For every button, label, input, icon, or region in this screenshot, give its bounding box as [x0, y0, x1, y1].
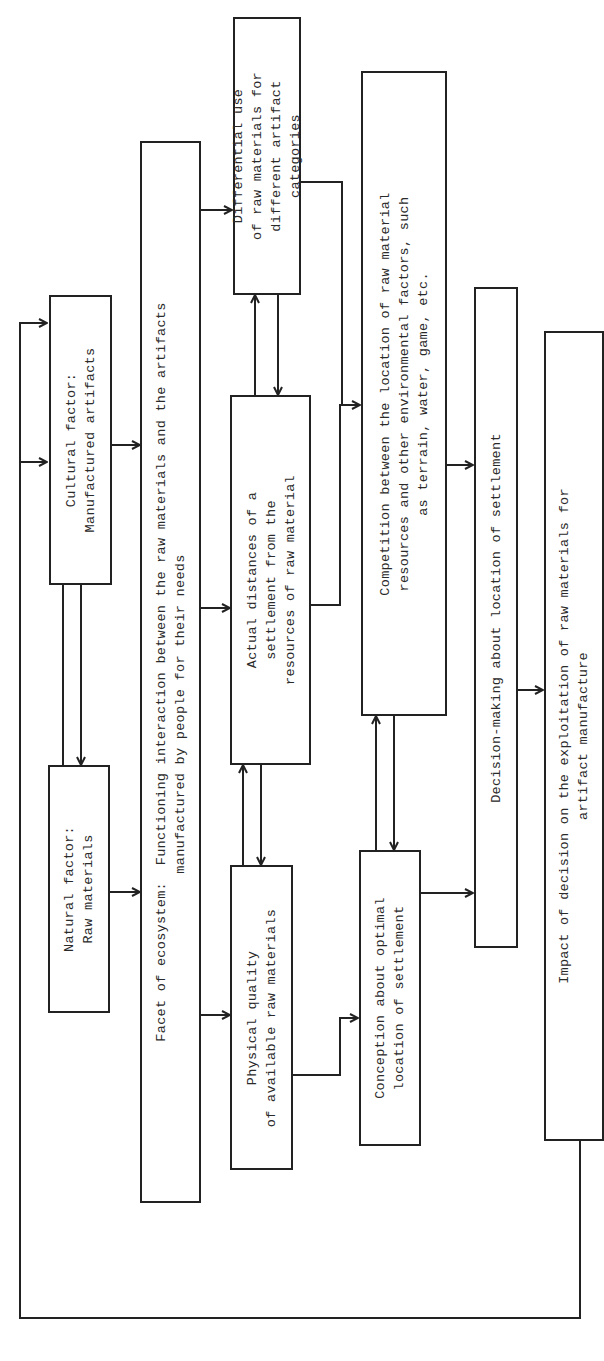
- box-competition: Competition between the location of raw …: [361, 71, 447, 716]
- actual-distances-label: Actual distances of a settlement from th…: [242, 475, 299, 685]
- box-physical-quality: Physical quality of available raw materi…: [230, 865, 293, 1170]
- box-impact-of-decision: Impact of decision on the exploitation o…: [544, 331, 604, 1141]
- cultural-factor-label: Cultural factor: Manufactured artifacts: [62, 348, 100, 533]
- box-decision-making: Decision-making about location of settle…: [474, 287, 518, 948]
- box-facet-of-ecosystem: Facet of ecosystem: Functioning interact…: [140, 141, 201, 1203]
- conception-optimal-location-label: Conception about optimal location of set…: [371, 897, 409, 1099]
- box-cultural-factor: Cultural factor: Manufactured artifacts: [49, 295, 112, 585]
- competition-label: Competition between the location of raw …: [376, 192, 433, 595]
- box-actual-distances: Actual distances of a settlement from th…: [230, 395, 311, 765]
- box-natural-factor: Natural factor: Raw materials: [48, 765, 110, 1013]
- box-differential-use: Differential use of raw materials for di…: [233, 17, 301, 295]
- physical-quality-label: Physical quality of available raw materi…: [243, 908, 281, 1126]
- box-conception-optimal-location: Conception about optimal location of set…: [359, 850, 421, 1146]
- facet-of-ecosystem-label: Facet of ecosystem: Functioning interact…: [152, 302, 190, 1041]
- differential-use-label: Differential use of raw materials for di…: [229, 72, 305, 240]
- impact-of-decision-label: Impact of decision on the exploitation o…: [555, 488, 593, 984]
- decision-making-label: Decision-making about location of settle…: [487, 433, 506, 803]
- natural-factor-label: Natural factor: Raw materials: [60, 826, 98, 952]
